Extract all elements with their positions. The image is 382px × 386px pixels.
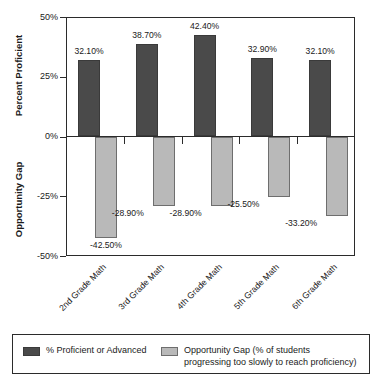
bar-value-label-proficient: 32.10% xyxy=(296,47,344,56)
legend-label-proficient: % Proficient or Advanced xyxy=(46,345,147,357)
x-tick-mark xyxy=(239,137,240,144)
y-tick-label: -25% xyxy=(12,192,58,201)
x-axis-category-label: 6th Grade Math xyxy=(281,262,339,320)
bar-opportunity-gap xyxy=(95,137,117,239)
x-tick-mark xyxy=(182,137,183,144)
bar-value-label-proficient: 42.40% xyxy=(181,22,229,31)
legend-item-opportunity-gap: Opportunity Gap (% of students progressi… xyxy=(161,345,357,368)
legend-item-proficient: % Proficient or Advanced xyxy=(23,345,147,357)
bar-opportunity-gap xyxy=(211,137,233,206)
bar-proficient xyxy=(309,60,331,137)
bar-value-label-opportunity-gap: -42.50% xyxy=(82,241,130,250)
bar-value-label-proficient: 32.10% xyxy=(65,47,113,56)
bar-value-label-opportunity-gap: -28.90% xyxy=(162,209,210,218)
legend-label-opportunity-gap: Opportunity Gap (% of students progressi… xyxy=(184,345,357,368)
bar-proficient xyxy=(194,35,216,136)
bar-opportunity-gap xyxy=(326,137,348,216)
bar-proficient xyxy=(78,60,100,137)
y-tick-label: -50% xyxy=(12,252,58,261)
legend-swatch-light-icon xyxy=(161,347,178,356)
y-tick-label: 50% xyxy=(12,13,58,22)
bar-opportunity-gap xyxy=(268,137,290,198)
x-axis-category-label: 5th Grade Math xyxy=(223,262,281,320)
legend-swatch-dark-icon xyxy=(23,347,40,356)
bar-proficient xyxy=(251,58,273,137)
x-axis-category-label: 2nd Grade Math xyxy=(50,262,108,320)
bar-value-label-proficient: 32.90% xyxy=(238,45,286,54)
bar-proficient xyxy=(136,44,158,136)
bar-opportunity-gap xyxy=(153,137,175,206)
x-axis-category-label: 3rd Grade Math xyxy=(108,262,166,320)
bar-value-label-opportunity-gap: -25.50% xyxy=(219,200,267,209)
bar-value-label-opportunity-gap: -33.20% xyxy=(277,219,325,228)
bar-value-label-opportunity-gap: -28.90% xyxy=(104,209,152,218)
x-tick-mark xyxy=(124,137,125,144)
y-tick-mark xyxy=(60,256,66,257)
y-tick-label: 25% xyxy=(12,72,58,81)
bar-value-label-proficient: 38.70% xyxy=(123,31,171,40)
y-tick-label: 0% xyxy=(12,132,58,141)
chart-legend: % Proficient or Advanced Opportunity Gap… xyxy=(12,334,370,374)
x-axis-category-label: 4th Grade Math xyxy=(166,262,224,320)
x-tick-mark xyxy=(297,137,298,144)
bar-chart: Percent Proficient Opportunity Gap 50%25… xyxy=(0,0,382,386)
